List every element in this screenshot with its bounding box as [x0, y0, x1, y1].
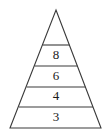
band-label-3: 4	[53, 88, 60, 103]
pyramid-svg: 8 6 4 3	[0, 0, 111, 135]
pyramid-figure: 8 6 4 3	[0, 0, 111, 135]
band-label-2: 6	[53, 68, 60, 83]
band-label-4: 3	[53, 109, 60, 124]
band-label-1: 8	[53, 47, 60, 62]
